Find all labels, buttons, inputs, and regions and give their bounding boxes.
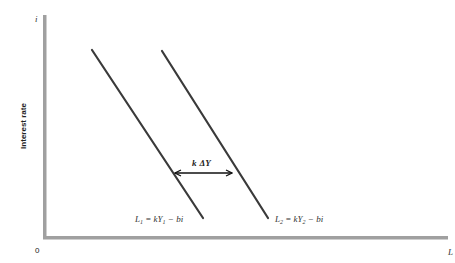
- y-axis-label: Interest rate: [19, 103, 28, 149]
- l1-curve: [92, 50, 203, 218]
- y-axis: [43, 15, 47, 239]
- l2-equation: L2 = kY2 − bi: [274, 214, 324, 225]
- origin-label: 0: [35, 246, 40, 255]
- y-axis-symbol: i: [35, 14, 38, 24]
- x-axis-symbol: L: [447, 247, 453, 257]
- x-axis: [43, 236, 448, 240]
- shift-annotation: kΔY: [192, 158, 212, 168]
- money-demand-diagram: i Interest rate 0 L kΔY L1 = kY1 − bi L2…: [0, 0, 455, 263]
- l2-curve: [162, 51, 268, 218]
- l1-equation: L1 = kY1 − bi: [134, 214, 184, 225]
